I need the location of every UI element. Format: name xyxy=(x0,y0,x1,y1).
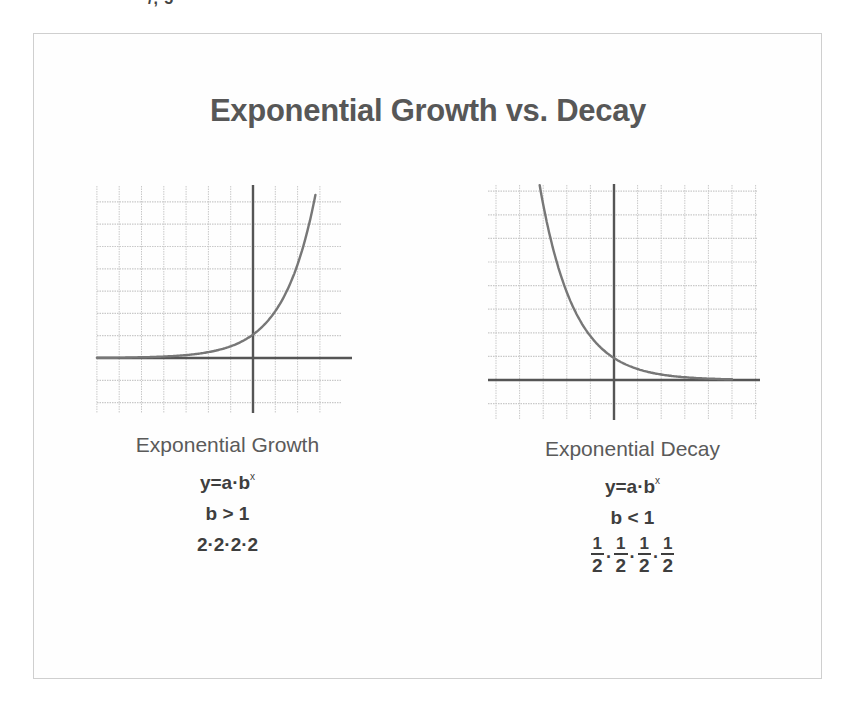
growth-caption: Exponential Growth y=a·bx b > 1 2·2·2·2 xyxy=(100,433,355,560)
multiply-dot: · xyxy=(630,548,636,566)
decay-formula-exponent: x xyxy=(655,475,660,486)
decay-formula-base: y=a·b xyxy=(605,476,655,497)
decay-axes xyxy=(488,184,760,420)
decay-example: 12·12·12·12 xyxy=(510,533,755,575)
fraction: 12 xyxy=(614,535,627,575)
fraction-denominator: 2 xyxy=(592,555,603,575)
growth-label: Exponential Growth xyxy=(100,433,355,467)
growth-condition: b > 1 xyxy=(100,498,355,529)
fraction-numerator: 1 xyxy=(591,535,604,555)
fraction-numerator: 1 xyxy=(638,535,651,555)
multiply-dot: · xyxy=(606,548,612,566)
growth-formula: y=a·bx xyxy=(100,467,355,498)
fraction: 12 xyxy=(638,535,651,575)
decay-formula: y=a·bx xyxy=(510,471,755,502)
decay-caption: Exponential Decay y=a·bx b < 1 12·12·12·… xyxy=(510,437,755,575)
decay-label: Exponential Decay xyxy=(510,437,755,471)
fraction-denominator: 2 xyxy=(615,555,626,575)
fraction-denominator: 2 xyxy=(662,555,673,575)
decay-condition: b < 1 xyxy=(510,502,755,533)
multiply-dot: · xyxy=(653,548,659,566)
fraction: 12 xyxy=(661,535,674,575)
fraction-denominator: 2 xyxy=(639,555,650,575)
fraction-numerator: 1 xyxy=(614,535,627,555)
fraction-numerator: 1 xyxy=(661,535,674,555)
growth-formula-exponent: x xyxy=(250,471,255,482)
decay-grid xyxy=(488,185,758,420)
growth-example: 2·2·2·2 xyxy=(100,529,355,560)
growth-formula-base: y=a·b xyxy=(200,472,250,493)
fraction: 12 xyxy=(591,535,604,575)
decay-chart xyxy=(0,0,856,716)
decay-example-fractions: 12·12·12·12 xyxy=(590,535,676,575)
